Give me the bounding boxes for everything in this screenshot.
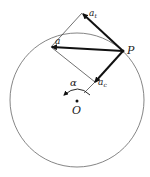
centripetal-label: ac <box>98 77 107 88</box>
angular-acceleration-arc-icon <box>64 89 90 95</box>
acceleration-diagram: at a ac P O α <box>0 0 150 177</box>
point-p-label: P <box>126 44 135 57</box>
angular-accel-label: α <box>70 77 77 88</box>
tangential-label: at <box>89 8 97 19</box>
total-acceleration-vector <box>52 47 123 51</box>
tangential-acceleration-vector <box>83 14 123 51</box>
origin-label: O <box>72 104 81 117</box>
point-p-dot <box>122 50 125 53</box>
origin-dot <box>76 100 79 103</box>
total-accel-label: a <box>55 36 60 46</box>
